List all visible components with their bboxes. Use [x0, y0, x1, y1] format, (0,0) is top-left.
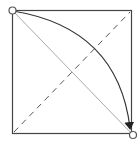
start-point-icon: [9, 7, 16, 14]
solid-diagonal: [13, 11, 132, 134]
end-point-icon: [130, 132, 137, 139]
diagram-canvas: [0, 0, 140, 144]
